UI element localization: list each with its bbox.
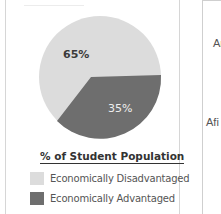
slice-label-advantaged: 35% <box>108 102 132 115</box>
legend-item-advantaged: Economically Advantaged <box>30 192 175 205</box>
axis-label: Afi <box>206 116 219 128</box>
legend-label: Economically Disadvantaged <box>50 173 189 184</box>
legend-swatch-light <box>30 172 44 185</box>
slice-label-disadvantaged: 65% <box>63 48 89 61</box>
legend-swatch-dark <box>30 192 44 205</box>
legend-label: Economically Advantaged <box>50 193 175 204</box>
legend-item-disadvantaged: Economically Disadvantaged <box>30 172 189 185</box>
legend-title: % of Student Population <box>40 150 184 164</box>
adjacent-chart-panel: Ar Afi <box>202 0 221 214</box>
axis-label: Ar <box>213 37 221 49</box>
